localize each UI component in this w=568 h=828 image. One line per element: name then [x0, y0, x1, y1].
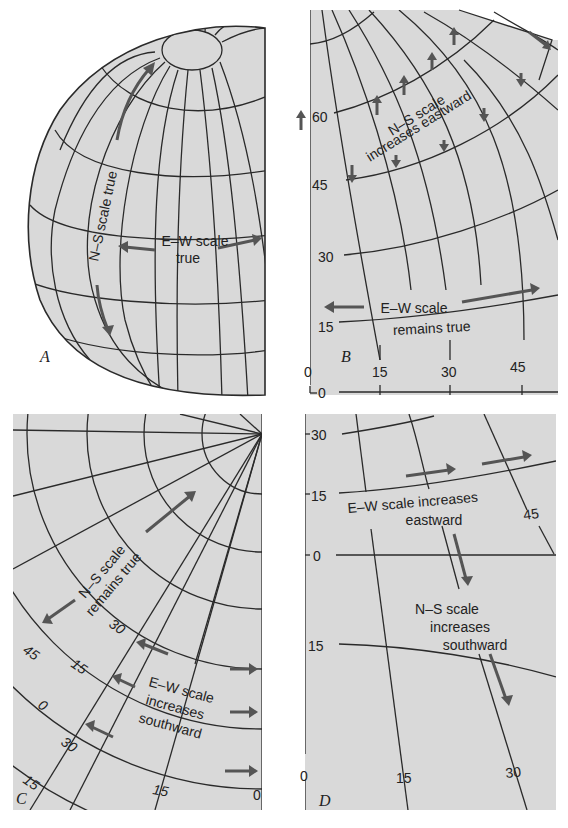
ew-scale-label-2: eastward: [406, 512, 463, 528]
lon-tick-30: 30: [505, 763, 522, 781]
lon-tick-45: 45: [510, 359, 526, 375]
ew-scale-label-1: E–W scale: [381, 300, 448, 316]
panel-letter: C: [16, 790, 27, 807]
lon-tick-30: 30: [441, 364, 457, 380]
panel-b-graticule: N–S scale increases eastward E–W scale r…: [284, 0, 568, 414]
globe-graticule: N–S scale true E–W scale true A: [0, 0, 284, 414]
lat-tick-60: 60: [312, 109, 328, 125]
ew-scale-label-2: true: [176, 250, 200, 266]
panel-c-graticule: N–S scale remains true E–W scale increas…: [0, 414, 284, 828]
lat-tick-15: 15: [311, 488, 327, 504]
lon-tick-15: 15: [151, 781, 169, 799]
panel-b-conic: N–S scale increases eastward E–W scale r…: [284, 0, 568, 414]
panel-letter: A: [39, 348, 50, 365]
ns-scale-label-1: N–S scale: [415, 601, 479, 617]
panel-letter: B: [341, 348, 351, 365]
ew-scale-label-1: E–W scale: [162, 233, 229, 249]
panel-d-graticule: E–W scale increases eastward N–S scale i…: [284, 414, 568, 828]
ns-scale-label-2: increases: [430, 619, 490, 635]
lat-tick-30: 30: [318, 249, 334, 265]
lon-tick-0: 0: [304, 364, 312, 380]
lon-tick-15: 15: [396, 770, 412, 786]
panel-c-azimuthal: N–S scale remains true E–W scale increas…: [0, 414, 284, 828]
lon-tick-0: 0: [253, 787, 261, 803]
lat-tick-0: 0: [318, 385, 326, 401]
ns-scale-label-3: southward: [443, 637, 508, 653]
panel-letter: D: [318, 792, 331, 809]
lat-tick-15s: 15: [308, 638, 324, 654]
panel-a-globe: N–S scale true E–W scale true A: [0, 0, 284, 414]
lat-tick-30: 30: [311, 427, 327, 443]
lat-tick-45: 45: [312, 177, 328, 193]
lon-tick-45: 45: [522, 505, 540, 523]
lon-tick-0: 0: [300, 768, 308, 784]
lat-tick-0: 0: [313, 548, 321, 564]
lon-tick-15: 15: [372, 364, 388, 380]
panel-d-conformal: E–W scale increases eastward N–S scale i…: [284, 414, 568, 828]
lat-tick-15: 15: [318, 319, 334, 335]
